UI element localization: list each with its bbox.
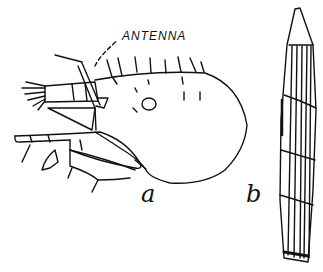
head-capsule-a bbox=[15, 40, 247, 192]
segmented-structure-b bbox=[280, 8, 316, 262]
panel-label-b: b bbox=[246, 182, 261, 206]
illustration: ANTENNA a b bbox=[0, 0, 323, 272]
panel-label-a: a bbox=[141, 182, 155, 206]
antenna-annotation: ANTENNA bbox=[122, 30, 186, 42]
